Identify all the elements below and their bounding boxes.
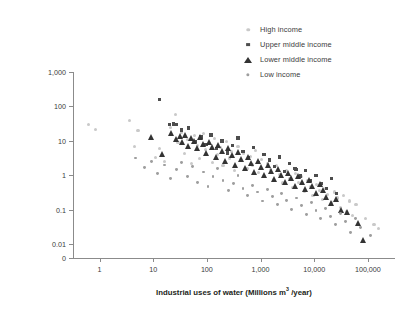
y-tick-mark [69, 175, 73, 176]
data-point-lower-middle-income [242, 165, 248, 171]
data-point-high-income [136, 129, 139, 132]
data-point-upper-middle-income [187, 126, 190, 129]
data-point-lower-middle-income [299, 179, 305, 185]
data-point-low-income [319, 217, 322, 220]
data-point-lower-middle-income [258, 164, 264, 170]
y-tick-mark [69, 258, 73, 259]
x-tick-label: 100 [201, 265, 213, 274]
data-point-low-income [222, 179, 225, 182]
legend-item-high-income[interactable]: High income [243, 23, 403, 36]
data-point-low-income [369, 234, 372, 237]
legend-marker-square-icon [243, 40, 253, 50]
data-point-high-income [342, 194, 345, 197]
data-point-upper-middle-income [209, 133, 212, 136]
x-tick-label: 10 [149, 265, 157, 274]
data-point-lower-middle-income [355, 220, 361, 226]
data-point-lower-middle-income [333, 196, 339, 202]
data-point-lower-middle-income [185, 143, 191, 149]
data-point-low-income [175, 168, 178, 171]
data-point-low-income [324, 207, 327, 210]
data-point-lower-middle-income [148, 134, 154, 140]
x-tick-mark [207, 258, 208, 262]
y-tick-label: 10 [58, 136, 66, 145]
x-tick-mark [100, 258, 101, 262]
data-point-low-income [261, 200, 264, 203]
scatter-chart-figure: High incomeUpper middle incomeLower midd… [0, 0, 408, 311]
data-point-high-income [94, 128, 97, 131]
data-point-low-income [359, 226, 362, 229]
data-point-low-income [246, 194, 249, 197]
data-point-lower-middle-income [292, 183, 298, 189]
data-point-high-income [233, 169, 236, 172]
data-point-upper-middle-income [278, 155, 281, 158]
data-point-upper-middle-income [330, 177, 333, 180]
x-tick-label: 1 [98, 265, 102, 274]
y-tick-mark [69, 210, 73, 211]
data-point-low-income [196, 181, 199, 184]
data-point-low-income [290, 208, 293, 211]
data-point-low-income [339, 212, 342, 215]
data-point-low-income [134, 157, 137, 160]
data-point-lower-middle-income [225, 145, 231, 151]
data-point-high-income [221, 164, 224, 167]
data-point-low-income [216, 167, 219, 170]
data-point-lower-middle-income [261, 172, 267, 178]
data-point-low-income [169, 177, 172, 180]
y-tick-label: 0.01 [52, 240, 66, 249]
data-point-low-income [349, 231, 352, 234]
data-point-high-income [372, 223, 375, 226]
x-tick-label: 10,000 [303, 265, 325, 274]
data-point-low-income [310, 201, 313, 204]
data-point-lower-middle-income [203, 150, 209, 156]
data-point-low-income [207, 185, 210, 188]
data-point-low-income [285, 199, 288, 202]
x-tick-label: 1,000 [252, 265, 270, 274]
data-point-high-income [348, 199, 351, 202]
data-point-upper-middle-income [288, 162, 291, 165]
x-tick-mark [261, 258, 262, 262]
y-tick-mark [69, 141, 73, 142]
data-point-lower-middle-income [229, 152, 235, 158]
data-point-high-income [133, 145, 136, 148]
data-point-low-income [180, 161, 183, 164]
data-point-lower-middle-income [213, 154, 219, 160]
data-point-lower-middle-income [302, 186, 308, 192]
data-point-low-income [266, 188, 269, 191]
data-point-lower-middle-income [344, 209, 350, 215]
legend-item-lower-middle-income[interactable]: Lower middle income [243, 53, 403, 66]
data-point-lower-middle-income [238, 156, 244, 162]
data-point-lower-middle-income [200, 141, 206, 147]
data-point-lower-middle-income [271, 176, 277, 182]
data-point-high-income [163, 160, 166, 163]
data-point-low-income [242, 187, 245, 190]
data-point-lower-middle-income [313, 190, 319, 196]
data-point-lower-middle-income [219, 148, 225, 154]
legend-item-upper-middle-income[interactable]: Upper middle income [243, 38, 403, 51]
data-point-lower-middle-income [278, 172, 284, 178]
data-point-low-income [202, 171, 205, 174]
data-point-low-income [329, 215, 332, 218]
y-tick-label: 1 [62, 171, 66, 180]
data-point-low-income [305, 213, 308, 216]
data-point-lower-middle-income [222, 158, 228, 164]
data-point-lower-middle-income [232, 162, 238, 168]
x-axis-title: Industrial uses of water (Millions m3 /y… [73, 286, 395, 297]
y-tick-label: 100 [54, 102, 66, 111]
legend-marker-triangle-icon [243, 55, 253, 65]
data-point-lower-middle-income [235, 149, 241, 155]
data-point-low-income [256, 191, 259, 194]
data-point-lower-middle-income [282, 179, 288, 185]
data-point-high-income [154, 156, 157, 159]
y-tick-label: 0.1 [56, 205, 66, 214]
data-point-high-income [183, 152, 186, 155]
data-point-high-income [236, 145, 239, 148]
data-point-low-income [300, 204, 303, 207]
data-point-high-income [377, 227, 380, 230]
data-point-lower-middle-income [197, 134, 203, 140]
data-point-high-income [158, 147, 161, 150]
data-point-low-income [212, 175, 215, 178]
data-point-upper-middle-income [314, 174, 317, 177]
data-point-high-income [260, 158, 263, 161]
data-point-high-income [174, 113, 177, 116]
y-tick-mark [69, 106, 73, 107]
